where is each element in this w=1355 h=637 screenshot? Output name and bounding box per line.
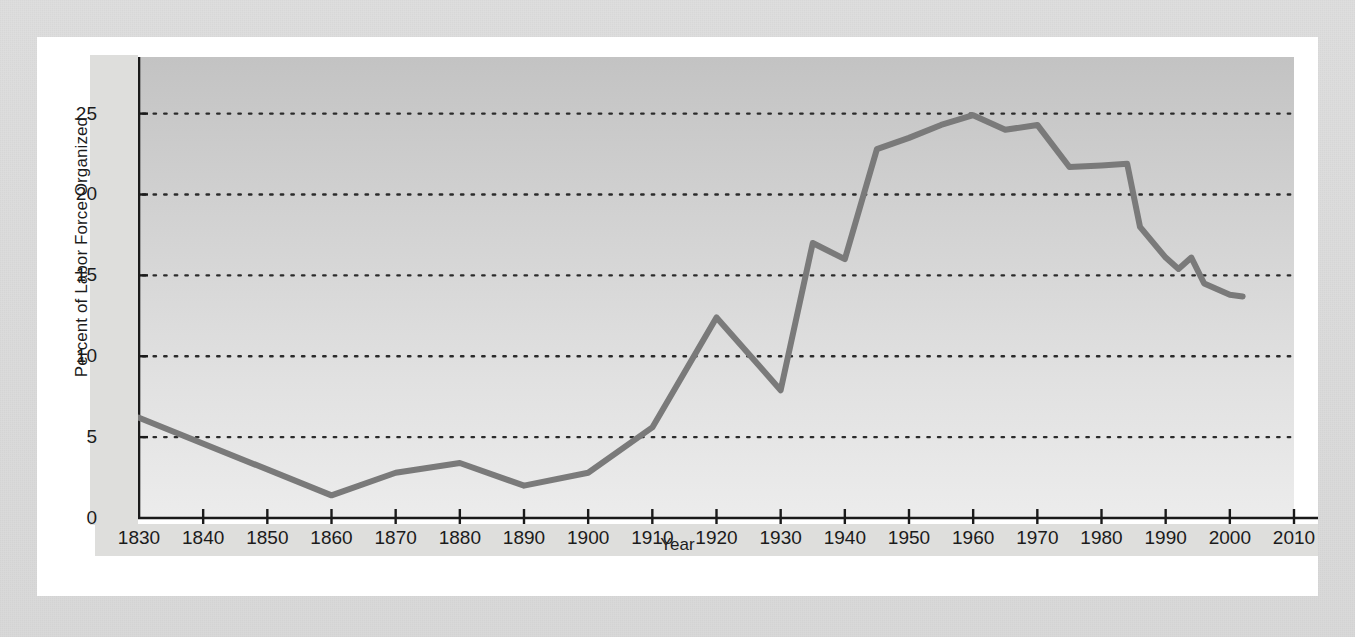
x-tick-label: 1930 — [760, 527, 802, 549]
x-tick-label: 1880 — [439, 527, 481, 549]
plot-canvas — [37, 37, 1318, 596]
x-tick-label: 1950 — [888, 527, 930, 549]
x-tick-label: 1890 — [503, 527, 545, 549]
y-tick-label: 25 — [57, 103, 97, 125]
y-tick-label: 15 — [57, 264, 97, 286]
y-tick-labels: 0510152025 — [49, 37, 97, 596]
y-tick-label: 10 — [57, 345, 97, 367]
x-tick-label: 1840 — [182, 527, 224, 549]
x-tick-label: 2010 — [1273, 527, 1315, 549]
x-tick-label: 1900 — [567, 527, 609, 549]
x-tick-label: 1860 — [310, 527, 352, 549]
ytick-label-band — [90, 55, 138, 525]
x-tick-label: 1960 — [952, 527, 994, 549]
x-tick-label: 1980 — [1080, 527, 1122, 549]
page-root: Percent of Labor Force Organized Year 05… — [0, 0, 1355, 637]
plot-background — [139, 57, 1294, 518]
y-tick-label: 0 — [57, 507, 97, 529]
x-tick-label: 1920 — [695, 527, 737, 549]
x-tick-label: 1830 — [118, 527, 160, 549]
x-tick-label: 1910 — [631, 527, 673, 549]
x-tick-label: 1870 — [375, 527, 417, 549]
x-tick-label: 1970 — [1016, 527, 1058, 549]
x-tick-label: 1940 — [824, 527, 866, 549]
x-tick-label: 1990 — [1145, 527, 1187, 549]
y-tick-label: 20 — [57, 183, 97, 205]
chart-figure: Percent of Labor Force Organized Year 05… — [37, 37, 1318, 596]
x-tick-labels: 1830184018501860187018801890190019101920… — [37, 527, 1318, 555]
x-tick-label: 1850 — [246, 527, 288, 549]
y-tick-label: 5 — [57, 426, 97, 448]
x-tick-label: 2000 — [1209, 527, 1251, 549]
figure-card: Percent of Labor Force Organized Year 05… — [37, 37, 1318, 596]
